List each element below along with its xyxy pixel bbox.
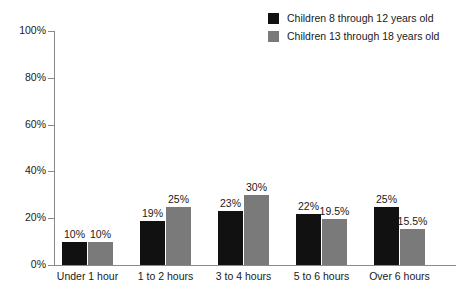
y-axis-tick-label-text: 20% <box>2 212 46 223</box>
plot-area: 10%10%19%25%23%30%22%19.5%25%15.5% <box>55 31 456 265</box>
legend-swatch-series-1 <box>268 13 279 24</box>
x-axis-category-label: Under 1 hour <box>43 270 133 282</box>
y-axis-tick-mark <box>48 171 54 172</box>
y-axis-tick-label-text: 0% <box>2 259 46 270</box>
x-axis-category-label: 5 to 6 hours <box>277 270 367 282</box>
bar-value-label: 30% <box>246 181 267 193</box>
y-axis-tick-label-text: 80% <box>2 72 46 83</box>
bar: 25% <box>374 207 399 266</box>
bar-chart: Children 8 through 12 years old Children… <box>0 0 467 298</box>
legend-item-label: Children 8 through 12 years old <box>287 13 434 24</box>
bar: 19% <box>140 221 165 265</box>
bar-group: 10%10% <box>62 31 113 265</box>
bar-value-label: 19.5% <box>320 205 350 217</box>
bar: 19.5% <box>322 219 347 265</box>
x-axis-line <box>54 265 456 266</box>
bar-value-label: 23% <box>220 197 241 209</box>
legend-item: Children 8 through 12 years old <box>268 11 458 26</box>
y-axis-tick-label: 40% <box>0 165 46 176</box>
bar-group: 25%15.5% <box>374 31 425 265</box>
bar: 10% <box>88 242 113 265</box>
y-axis-tick-label: 60% <box>0 119 46 130</box>
y-axis-tick-label: 80% <box>0 72 46 83</box>
x-axis-category-label: 3 to 4 hours <box>199 270 289 282</box>
bar-value-label: 22% <box>298 200 319 212</box>
bar-value-label: 10% <box>90 228 111 240</box>
y-axis-tick-mark <box>48 218 54 219</box>
y-axis-tick-label-text: 60% <box>2 119 46 130</box>
bar: 30% <box>244 195 269 265</box>
bar-value-label: 25% <box>168 193 189 205</box>
bar-group: 19%25% <box>140 31 191 265</box>
y-axis-tick-label: 100% <box>0 25 46 36</box>
x-axis-category-label: Over 6 hours <box>355 270 445 282</box>
y-axis-tick-label-text: 40% <box>2 165 46 176</box>
bar: 25% <box>166 207 191 266</box>
bar: 10% <box>62 242 87 265</box>
bar: 23% <box>218 211 243 265</box>
y-axis-tick-label: 20% <box>0 212 46 223</box>
y-axis-tick-label: 0% <box>0 259 46 270</box>
bar-value-label: 15.5% <box>398 215 428 227</box>
bar-value-label: 19% <box>142 207 163 219</box>
x-axis-category-label: 1 to 2 hours <box>121 270 211 282</box>
y-axis-tick-label-text: 100% <box>2 25 46 36</box>
bar-value-label: 25% <box>376 193 397 205</box>
y-axis-tick-mark <box>48 125 54 126</box>
bar-value-label: 10% <box>64 228 85 240</box>
y-axis-tick-mark <box>48 31 54 32</box>
bar-group: 22%19.5% <box>296 31 347 265</box>
bar: 15.5% <box>400 229 425 265</box>
y-axis-tick-mark <box>48 265 54 266</box>
bar: 22% <box>296 214 321 265</box>
y-axis-tick-mark <box>48 78 54 79</box>
bar-group: 23%30% <box>218 31 269 265</box>
